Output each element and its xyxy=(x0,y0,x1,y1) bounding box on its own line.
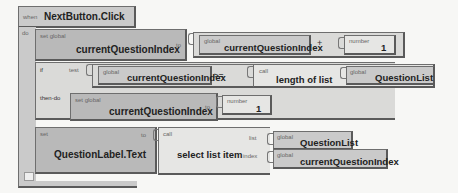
global-prefix: global xyxy=(204,38,220,44)
select-list-item-block[interactable]: call select list item list index xyxy=(158,127,270,175)
event-name: NextButton.Click xyxy=(44,11,125,22)
number-prefix: number xyxy=(349,38,369,44)
call-prefix: call xyxy=(259,68,268,74)
event-block-body xyxy=(18,27,36,183)
number-prefix: number xyxy=(227,98,247,104)
getter-name: currentQuestionIndex xyxy=(127,72,226,83)
global-getter-block[interactable]: global currentQuestionIndex xyxy=(98,66,212,85)
global-prefix: global xyxy=(277,152,293,158)
set-label-text-block[interactable]: set QuestionLabel.Text to xyxy=(35,127,157,174)
number-value: 1 xyxy=(256,103,261,114)
to-label: to xyxy=(141,132,146,138)
to-label: to xyxy=(176,42,181,48)
global-getter-block[interactable]: global currentQuestionIndex xyxy=(273,149,388,169)
then-do-label: then-do xyxy=(40,95,60,101)
getter-name: QuestionList xyxy=(375,72,433,83)
number-block[interactable]: number 1 xyxy=(222,95,272,115)
index-arg-label: index xyxy=(243,153,257,159)
to-label: to xyxy=(205,104,210,110)
event-block-nextbutton-click[interactable]: when NextButton.Click xyxy=(18,6,136,28)
set-label: set xyxy=(40,131,48,137)
list-arg-label: list xyxy=(249,135,256,141)
event-block-footer xyxy=(18,181,137,188)
getter-name: QuestionList xyxy=(300,137,358,148)
call-prefix: call xyxy=(163,131,172,137)
test-label: test xyxy=(69,67,79,73)
number-value: 1 xyxy=(381,42,386,53)
call-name: select list item xyxy=(177,149,242,160)
set-global-block[interactable]: set global currentQuestionIndex to xyxy=(35,29,187,61)
global-prefix: global xyxy=(277,134,293,140)
global-prefix: global xyxy=(350,69,366,75)
when-label: when xyxy=(23,14,37,20)
set-global-label: set global xyxy=(40,33,66,39)
var-name: currentQuestionIndex xyxy=(109,106,213,117)
global-prefix: global xyxy=(103,69,119,75)
set-global-block[interactable]: set global currentQuestionIndex to xyxy=(70,93,218,121)
property-name: QuestionLabel.Text xyxy=(54,149,146,160)
getter-name: currentQuestionIndex xyxy=(224,42,323,53)
call-name: length of list xyxy=(276,74,332,85)
global-getter-block[interactable]: global QuestionList xyxy=(346,66,435,85)
set-global-label: set global xyxy=(75,97,101,103)
number-block[interactable]: number 1 xyxy=(344,35,396,55)
global-getter-block[interactable]: global QuestionList xyxy=(273,131,353,150)
if-label: if xyxy=(40,67,43,73)
var-name: currentQuestionIndex xyxy=(76,44,180,55)
global-getter-block[interactable]: global currentQuestionIndex xyxy=(199,35,311,55)
getter-name: currentQuestionIndex xyxy=(300,156,399,167)
collapse-toggle[interactable] xyxy=(24,172,34,181)
do-label: do xyxy=(22,30,29,36)
